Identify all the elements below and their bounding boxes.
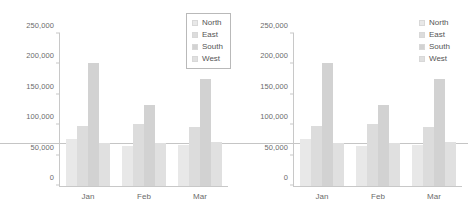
y-axis-tick-label-left: 0 bbox=[50, 173, 60, 182]
bar-south-jan-right[interactable] bbox=[322, 63, 333, 186]
bar-south-feb-left[interactable] bbox=[144, 105, 155, 186]
bar-north-jan-left[interactable] bbox=[66, 139, 77, 186]
legend-item-east-right[interactable]: East bbox=[419, 31, 450, 39]
legend-left: NorthEastSouthWest bbox=[186, 13, 231, 69]
legend-label-right: South bbox=[429, 43, 450, 51]
x-axis-tick-label-feb-left: Feb bbox=[137, 192, 151, 201]
bar-group-jan-left bbox=[60, 34, 116, 186]
y-axis-tick-label-left: 200,000 bbox=[26, 51, 60, 60]
bar-west-mar-right[interactable] bbox=[445, 142, 456, 186]
bar-west-jan-left[interactable] bbox=[99, 143, 110, 186]
bar-north-feb-right[interactable] bbox=[356, 146, 367, 186]
x-axis-line-left bbox=[59, 186, 228, 187]
bar-south-mar-left[interactable] bbox=[200, 79, 211, 186]
legend-label-left: East bbox=[202, 31, 218, 39]
y-axis-tick-label-right: 50,000 bbox=[264, 142, 294, 151]
chart-panel-right: 050,000100,000150,000200,000250,000 Nort… bbox=[234, 0, 468, 213]
y-axis-tick-label-right: 200,000 bbox=[260, 51, 294, 60]
bar-west-feb-left[interactable] bbox=[155, 143, 166, 186]
legend-label-right: North bbox=[429, 19, 449, 27]
y-axis-tick-label-right: 100,000 bbox=[260, 112, 294, 121]
bar-west-feb-right[interactable] bbox=[389, 143, 400, 186]
y-axis-tick-label-left: 250,000 bbox=[26, 21, 60, 30]
legend-label-left: South bbox=[202, 43, 223, 51]
bar-north-mar-left[interactable] bbox=[178, 145, 189, 186]
legend-item-west-right[interactable]: West bbox=[419, 55, 450, 63]
bar-south-mar-right[interactable] bbox=[434, 79, 445, 186]
legend-swatch-west-icon bbox=[192, 56, 198, 62]
dual-chart-page: 050,000100,000150,000200,000250,000 Nort… bbox=[0, 0, 468, 213]
y-axis-tick-label-right: 150,000 bbox=[260, 81, 294, 90]
legend-item-south-left[interactable]: South bbox=[192, 43, 223, 51]
x-axis-tick-label-jan-left: Jan bbox=[82, 192, 95, 201]
bar-south-jan-left[interactable] bbox=[88, 63, 99, 186]
legend-swatch-south-icon bbox=[192, 44, 198, 50]
legend-swatch-east-icon bbox=[419, 32, 425, 38]
legend-item-south-right[interactable]: South bbox=[419, 43, 450, 51]
y-axis-tick-label-right: 250,000 bbox=[260, 21, 294, 30]
legend-label-left: North bbox=[202, 19, 222, 27]
bar-east-mar-left[interactable] bbox=[189, 127, 200, 186]
legend-swatch-south-icon bbox=[419, 44, 425, 50]
legend-item-north-left[interactable]: North bbox=[192, 19, 223, 27]
legend-swatch-north-icon bbox=[419, 20, 425, 26]
x-axis-tick-label-jan-right: Jan bbox=[316, 192, 329, 201]
legend-label-left: West bbox=[202, 55, 220, 63]
bar-east-feb-right[interactable] bbox=[367, 124, 378, 186]
x-axis-tick-label-mar-left: Mar bbox=[193, 192, 207, 201]
chart-panel-left: 050,000100,000150,000200,000250,000 Nort… bbox=[0, 0, 234, 213]
y-axis-tick-label-left: 100,000 bbox=[26, 112, 60, 121]
y-axis-tick-label-left: 50,000 bbox=[30, 142, 60, 151]
bar-east-jan-right[interactable] bbox=[311, 126, 322, 186]
legend-swatch-north-icon bbox=[192, 20, 198, 26]
bar-east-jan-left[interactable] bbox=[77, 126, 88, 186]
legend-item-west-left[interactable]: West bbox=[192, 55, 223, 63]
x-axis-line-right bbox=[293, 186, 462, 187]
legend-right: NorthEastSouthWest bbox=[414, 14, 457, 68]
bar-group-feb-left bbox=[116, 34, 172, 186]
bar-east-feb-left[interactable] bbox=[133, 124, 144, 186]
y-axis-tick-label-left: 150,000 bbox=[26, 81, 60, 90]
legend-label-right: East bbox=[429, 31, 445, 39]
legend-item-north-right[interactable]: North bbox=[419, 19, 450, 27]
bar-north-mar-right[interactable] bbox=[412, 145, 423, 186]
bar-east-mar-right[interactable] bbox=[423, 127, 434, 186]
bar-south-feb-right[interactable] bbox=[378, 105, 389, 186]
legend-item-east-left[interactable]: East bbox=[192, 31, 223, 39]
bar-north-jan-right[interactable] bbox=[300, 139, 311, 186]
legend-swatch-west-icon bbox=[419, 56, 425, 62]
bar-west-jan-right[interactable] bbox=[333, 143, 344, 186]
x-axis-tick-label-mar-right: Mar bbox=[427, 192, 441, 201]
bar-group-jan-right bbox=[294, 34, 350, 186]
legend-swatch-east-icon bbox=[192, 32, 198, 38]
x-axis-tick-label-feb-right: Feb bbox=[371, 192, 385, 201]
y-axis-tick-label-right: 0 bbox=[284, 173, 294, 182]
bar-west-mar-left[interactable] bbox=[211, 142, 222, 186]
bar-north-feb-left[interactable] bbox=[122, 146, 133, 186]
bar-group-feb-right bbox=[350, 34, 406, 186]
legend-label-right: West bbox=[429, 55, 447, 63]
